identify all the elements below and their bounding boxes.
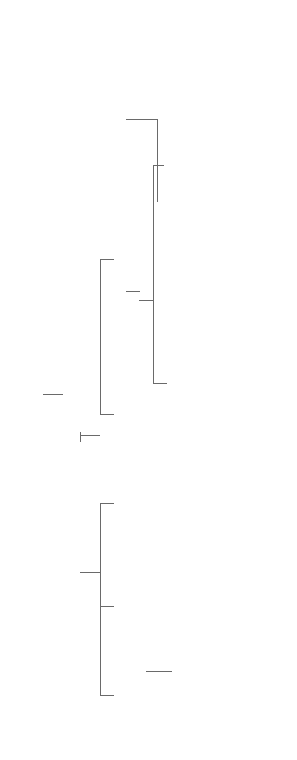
line-agnes-amalric-join bbox=[139, 291, 140, 292]
line-maria-down bbox=[126, 119, 157, 120]
line-maria-right bbox=[157, 119, 158, 138]
line-ermentrude-children bbox=[100, 503, 101, 696]
line-to-sibyl bbox=[153, 165, 164, 166]
line-fulk-melisende bbox=[80, 432, 81, 442]
line-to-henry bbox=[146, 671, 172, 672]
line-agnes-children-bar bbox=[153, 165, 154, 384]
line-to-geoffrey bbox=[100, 695, 114, 696]
line-to-matilda bbox=[100, 606, 114, 607]
line-marriage-down bbox=[80, 435, 100, 436]
line-agnes-children bbox=[139, 300, 153, 301]
family-tree-diagram bbox=[0, 0, 297, 760]
line-agnes-amalric bbox=[126, 291, 139, 292]
line-to-baldwin-iv bbox=[153, 383, 167, 384]
line-to-sibyl-anjou bbox=[100, 503, 114, 504]
line-to-amalric bbox=[100, 259, 114, 260]
line-children-bar bbox=[100, 259, 101, 415]
line-to-baldwin-iii bbox=[100, 414, 114, 415]
line-baldwin-ii-down bbox=[43, 394, 63, 395]
line-ermentrude-down bbox=[80, 572, 100, 573]
